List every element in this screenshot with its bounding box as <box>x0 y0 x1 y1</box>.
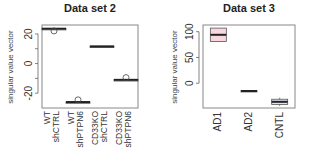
panel-data-set-2: Data set 2 singular value vector -20020 … <box>6 2 138 147</box>
y-tick-label: 20 <box>23 28 34 40</box>
x-category-label: shCTRL <box>99 111 109 142</box>
x-category-label: AD1 <box>212 112 223 132</box>
box <box>114 75 138 81</box>
chart-title: Data set 2 <box>64 2 116 14</box>
box <box>272 98 288 106</box>
box <box>66 97 90 103</box>
box <box>90 46 114 48</box>
chart-title: Data set 3 <box>223 2 275 14</box>
y-tick-label: -20 <box>23 86 34 101</box>
x-category-label: shCTRL <box>51 111 61 142</box>
y-tick-label: 0 <box>184 80 195 86</box>
box <box>241 90 257 92</box>
y-tick-label: 0 <box>23 60 34 66</box>
y-axis: 050100 <box>184 23 199 86</box>
box <box>210 28 226 41</box>
plot-frame <box>42 25 138 108</box>
panel-data-set-3: Data set 3 singular value vector 050100 … <box>170 2 295 138</box>
x-category-label: AD2 <box>243 112 254 132</box>
x-category-label: shPTPN6 <box>75 111 85 148</box>
y-tick-label: 100 <box>184 23 195 40</box>
x-axis-categories: WTshCTRLWTshPTPN6CD33KOshCTRLCD33KOshPTP… <box>42 111 133 148</box>
x-category-label: CNTL <box>274 112 285 139</box>
x-axis-categories: AD1AD2CNTL <box>212 112 284 139</box>
figure: Data set 2 singular value vector -20020 … <box>0 0 313 156</box>
box <box>42 28 66 34</box>
y-tick-label: 50 <box>184 51 195 63</box>
y-axis-label: singular value vector <box>6 30 15 104</box>
y-axis: -20020 <box>23 28 38 101</box>
x-category-label: shPTPN6 <box>123 111 133 148</box>
y-axis-label: singular value vector <box>170 30 179 104</box>
box-marks <box>210 28 287 106</box>
box-marks <box>42 28 138 103</box>
